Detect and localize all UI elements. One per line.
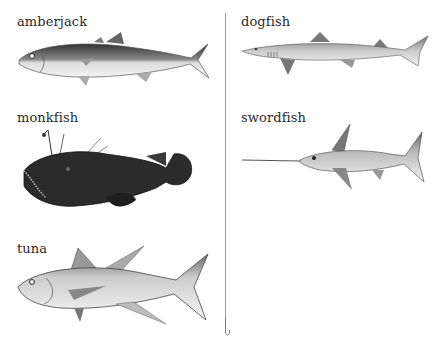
fish-label-monkfish: monkfish bbox=[17, 110, 78, 125]
tuna-image[interactable] bbox=[16, 242, 211, 332]
swordfish-image[interactable] bbox=[240, 124, 435, 204]
amberjack-image[interactable] bbox=[16, 30, 211, 90]
fish-label-swordfish: swordfish bbox=[241, 110, 306, 125]
fish-label-dogfish: dogfish bbox=[241, 14, 290, 29]
fish-hook-icon bbox=[220, 318, 232, 338]
dogfish-image[interactable] bbox=[240, 30, 435, 85]
fish-label-amberjack: amberjack bbox=[17, 14, 87, 29]
monkfish-image[interactable] bbox=[16, 126, 201, 216]
fishing-line-divider bbox=[225, 13, 226, 333]
